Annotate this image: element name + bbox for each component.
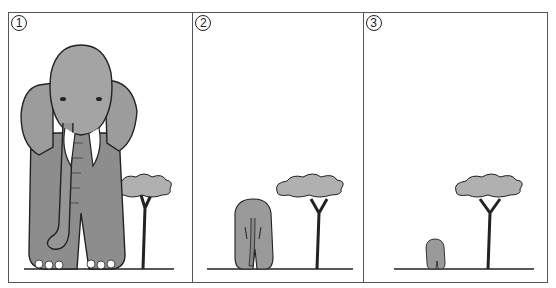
- panel-2: 2: [192, 13, 362, 282]
- elephant-icon: [235, 199, 273, 269]
- elephant-far-illustration: [364, 13, 547, 282]
- panel-number-badge: 3: [366, 15, 382, 31]
- comic-strip: 1: [8, 12, 548, 283]
- tree-icon: [455, 174, 522, 269]
- elephant-mid-illustration: [193, 13, 362, 282]
- elephant-icon: [21, 45, 137, 269]
- tree-icon: [277, 174, 344, 269]
- elephant-near-illustration: [9, 13, 192, 282]
- panel-3: 3: [363, 13, 547, 282]
- panel-1: 1: [9, 13, 192, 282]
- panel-number-badge: 1: [11, 15, 27, 31]
- elephant-icon: [426, 239, 445, 269]
